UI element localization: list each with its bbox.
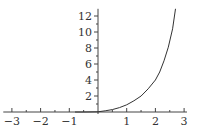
y-tick-label: 4 [85, 74, 92, 87]
plot-area: −3−2−112324681012 [0, 0, 198, 133]
x-tick-label: −3 [4, 115, 20, 128]
y-tick-label: 2 [85, 90, 92, 103]
x-tick-label: 2 [152, 115, 159, 128]
y-tick-label: 12 [78, 10, 92, 23]
x-tick-label: −2 [32, 115, 48, 128]
y-tick-label: 6 [85, 58, 92, 71]
x-tick-label: 1 [123, 115, 130, 128]
y-tick-label: 10 [78, 26, 92, 39]
chart: −3−2−112324681012 [0, 0, 198, 133]
x-tick-label: 3 [181, 115, 188, 128]
x-tick-label: −1 [61, 115, 77, 128]
y-tick-label: 8 [85, 42, 92, 55]
